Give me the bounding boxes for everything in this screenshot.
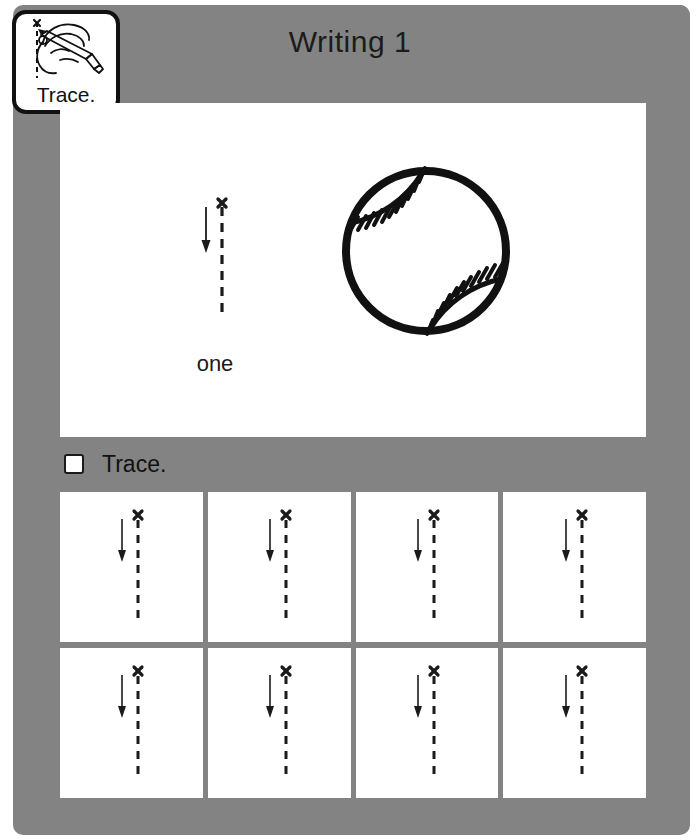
trace-guide-vertical-line-icon xyxy=(545,506,605,624)
practice-cell[interactable] xyxy=(356,648,499,798)
page-title: Writing 1 xyxy=(289,25,541,85)
trace-guide-vertical-line-icon xyxy=(397,506,457,624)
trace-instruction-badge: Trace. xyxy=(12,10,120,114)
practice-cell[interactable] xyxy=(503,492,646,642)
trace-guide-vertical-line-icon xyxy=(397,662,457,780)
trace-instruction-bar: Trace. xyxy=(60,443,646,485)
practice-cell[interactable] xyxy=(60,648,203,798)
practice-cell[interactable] xyxy=(356,492,499,642)
baseball-icon xyxy=(338,165,514,337)
trace-guide-vertical-line-icon xyxy=(101,506,161,624)
stroke-order-diagram-icon xyxy=(180,195,250,325)
trace-guide-vertical-line-icon xyxy=(545,662,605,780)
practice-cell[interactable] xyxy=(208,648,351,798)
header-band: Writing 1 xyxy=(140,5,690,105)
trace-bar-label: Trace. xyxy=(102,451,166,478)
trace-guide-vertical-line-icon xyxy=(249,506,309,624)
main-content-panel: one xyxy=(60,103,646,437)
practice-row xyxy=(60,648,646,798)
trace-checkbox[interactable] xyxy=(64,454,84,474)
practice-row xyxy=(60,492,646,642)
trace-guide-vertical-line-icon xyxy=(249,662,309,780)
trace-guide-vertical-line-icon xyxy=(101,662,161,780)
practice-grid xyxy=(60,492,646,798)
practice-cell[interactable] xyxy=(60,492,203,642)
practice-cell[interactable] xyxy=(503,648,646,798)
hand-holding-pencil-tracing-dashed-line-icon xyxy=(16,16,116,82)
practice-cell[interactable] xyxy=(208,492,351,642)
word-label: one xyxy=(170,351,260,377)
worksheet-page: Writing 1 xyxy=(0,0,699,840)
